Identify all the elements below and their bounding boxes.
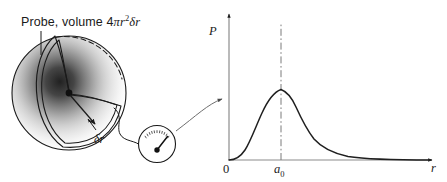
probe-label-lead: Probe, volume 4 [21,15,114,29]
probe-cable [114,108,141,146]
y-axis-label: P [209,24,217,39]
x-axis-label: r [431,161,436,176]
gauge-to-chart-arrow [176,99,222,131]
probe-sphere-illustration [12,31,141,150]
probability-curve [229,90,431,161]
bohr-radius-subscript: 0 [280,169,284,179]
probe-gauge [139,126,176,163]
radial-distribution-figure: Probe, volume 4πr2δr δr P r 0 a0 [0,0,447,182]
shell-label-r: r [100,132,105,146]
nucleus-dot [66,90,73,97]
shell-thickness-label: δr [94,132,104,147]
x-tick-label-bohr-radius: a0 [274,162,285,179]
gauge-needle-hub [154,147,159,152]
probe-volume-label: Probe, volume 4πr2δr [21,13,140,30]
radial-distribution-chart [229,14,432,160]
x-tick-label-origin: 0 [223,162,229,177]
probe-label-r2: r [135,15,140,29]
